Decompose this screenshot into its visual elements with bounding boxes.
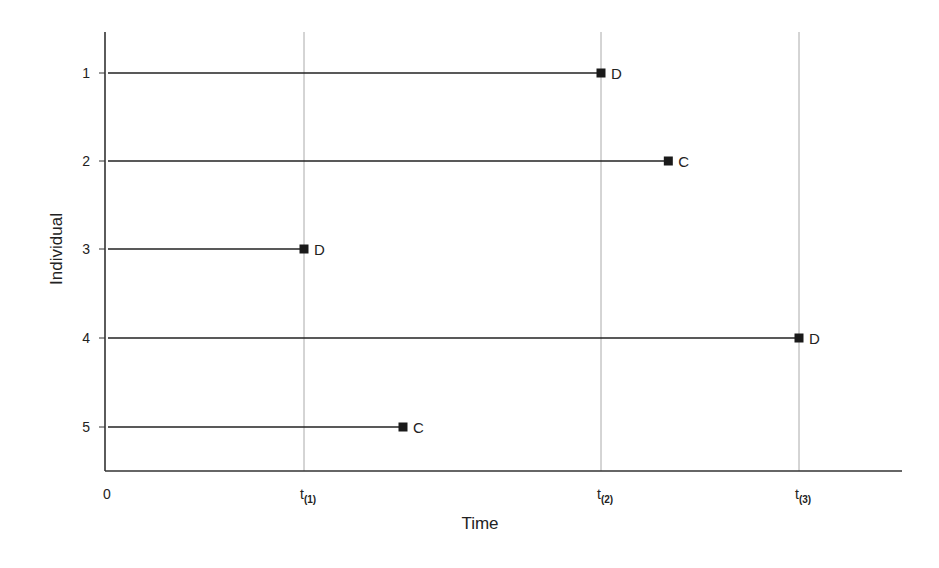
- x-tick-label: t(2): [597, 486, 613, 505]
- x-tick-label: t(1): [300, 486, 316, 505]
- y-axis-title: Individual: [47, 213, 66, 285]
- y-tick-label: 1: [82, 65, 90, 81]
- y-tick-label: 4: [82, 330, 90, 346]
- x-tick-label: t(3): [795, 486, 811, 505]
- status-label-5: C: [413, 419, 424, 436]
- end-marker-5: [399, 423, 408, 432]
- y-tick-label: 5: [82, 419, 90, 435]
- end-marker-3: [300, 245, 309, 254]
- x-axis-title: Time: [461, 514, 498, 533]
- y-tick-label: 2: [82, 153, 90, 169]
- end-marker-4: [795, 334, 804, 343]
- status-label-1: D: [611, 65, 622, 82]
- end-marker-1: [597, 69, 606, 78]
- status-label-3: D: [314, 241, 325, 258]
- y-tick-label: 3: [82, 241, 90, 257]
- status-label-4: D: [809, 330, 820, 347]
- end-marker-2: [664, 157, 673, 166]
- survival-time-chart: 123450t(1)t(2)t(3)DCDDCTimeIndividual: [0, 0, 939, 568]
- x-tick-label: 0: [103, 486, 111, 502]
- status-label-2: C: [678, 153, 689, 170]
